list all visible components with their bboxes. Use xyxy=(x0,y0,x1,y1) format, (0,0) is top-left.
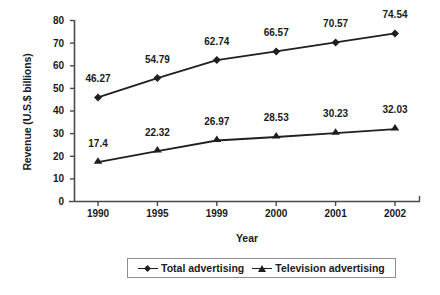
data-label-total-1995: 54.79 xyxy=(135,55,179,65)
data-label-tv-2002: 32.03 xyxy=(373,105,417,115)
y-tick-label: 60 xyxy=(44,61,64,71)
triangle-marker-icon xyxy=(252,263,272,273)
data-label-tv-1995: 22.32 xyxy=(135,128,179,138)
y-tick-label: 70 xyxy=(44,39,64,49)
x-tick-label: 1990 xyxy=(78,209,118,219)
x-tick-label: 1999 xyxy=(197,209,237,219)
data-label-total-1999: 62.74 xyxy=(195,37,239,47)
line-chart: 0 10 20 30 40 50 60 70 80 1990 1995 1999… xyxy=(0,0,440,295)
y-tick-label: 20 xyxy=(44,152,64,162)
y-tick-label: 80 xyxy=(44,16,64,26)
x-tick-label: 2001 xyxy=(316,209,356,219)
data-label-total-2001: 70.57 xyxy=(314,19,358,29)
data-label-total-2000: 66.57 xyxy=(254,28,298,38)
y-tick-label: 50 xyxy=(44,84,64,94)
chart-legend: Total advertising Television advertising xyxy=(127,258,396,278)
data-label-tv-2000: 28.53 xyxy=(254,113,298,123)
x-tick-label: 1995 xyxy=(137,209,177,219)
x-tick-label: 2002 xyxy=(375,209,415,219)
data-label-total-1990: 46.27 xyxy=(76,74,120,84)
x-tick-label: 2000 xyxy=(256,209,296,219)
y-tick-label: 10 xyxy=(44,174,64,184)
y-tick-label: 0 xyxy=(44,197,64,207)
data-label-tv-1990: 17.4 xyxy=(76,139,120,149)
data-label-total-2002: 74.54 xyxy=(373,10,417,20)
data-label-tv-1999: 26.97 xyxy=(195,117,239,127)
data-label-tv-2001: 30.23 xyxy=(314,109,358,119)
y-tick-label: 30 xyxy=(44,129,64,139)
y-tick-label: 40 xyxy=(44,106,64,116)
legend-label-television-advertising: Television advertising xyxy=(275,262,385,274)
legend-item-total-advertising[interactable]: Total advertising xyxy=(138,262,244,274)
y-axis-title: Revenue (U.S.$ billions) xyxy=(18,21,36,203)
diamond-marker-icon xyxy=(138,263,158,273)
y-axis-ticks xyxy=(69,21,74,202)
legend-item-television-advertising[interactable]: Television advertising xyxy=(252,262,385,274)
x-axis-title: Year xyxy=(74,232,420,244)
series-line-total-advertising xyxy=(98,33,395,97)
legend-label-total-advertising: Total advertising xyxy=(161,262,244,274)
